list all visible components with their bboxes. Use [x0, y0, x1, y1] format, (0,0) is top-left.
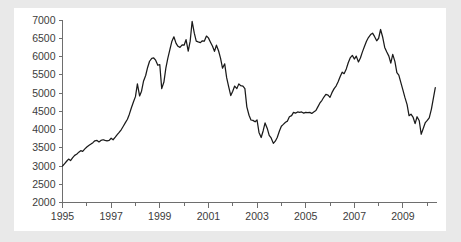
data-series-line [63, 21, 436, 166]
y-axis-tick-labels: 2000250030003500400045005000550060006500… [32, 14, 56, 209]
x-tick-label: 2009 [391, 210, 415, 222]
y-tick-label: 5500 [32, 68, 56, 80]
x-tick-label: 1997 [99, 210, 123, 222]
y-axis-tick-marks [59, 20, 63, 203]
x-tick-label: 2007 [343, 210, 367, 222]
y-tick-label: 5000 [32, 87, 56, 99]
y-tick-label: 2000 [32, 196, 56, 208]
y-tick-label: 7000 [32, 14, 56, 26]
y-tick-label: 3500 [32, 141, 56, 153]
x-axis-tick-labels: 19951997199920012003200520072009 [51, 210, 415, 222]
chart-page: 2000250030003500400045005000550060006500… [0, 0, 461, 242]
x-tick-label: 2003 [245, 210, 269, 222]
y-tick-label: 6000 [32, 50, 56, 62]
x-axis-tick-marks [63, 203, 428, 208]
line-chart: 2000250030003500400045005000550060006500… [0, 0, 461, 242]
y-tick-label: 2500 [32, 178, 56, 190]
y-tick-label: 3000 [32, 160, 56, 172]
y-tick-label: 4000 [32, 123, 56, 135]
x-tick-label: 1995 [51, 210, 75, 222]
x-tick-label: 2001 [197, 210, 221, 222]
x-tick-label: 2005 [294, 210, 318, 222]
x-tick-label: 1999 [148, 210, 172, 222]
y-tick-label: 4500 [32, 105, 56, 117]
y-tick-label: 6500 [32, 32, 56, 44]
